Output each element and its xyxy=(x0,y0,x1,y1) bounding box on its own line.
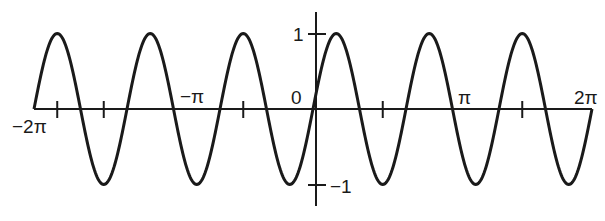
x-label-zero: 0 xyxy=(291,87,302,108)
sine-chart: −2π −π 0 π 2π 1 −1 xyxy=(0,0,605,221)
x-label-pi: π xyxy=(458,87,471,108)
x-label-2pi: 2π xyxy=(574,87,598,108)
y-label-1: 1 xyxy=(293,24,304,45)
y-label-neg1: −1 xyxy=(330,176,352,197)
x-label-neg-pi: −π xyxy=(180,86,204,107)
x-label-neg-2pi: −2π xyxy=(12,116,47,137)
